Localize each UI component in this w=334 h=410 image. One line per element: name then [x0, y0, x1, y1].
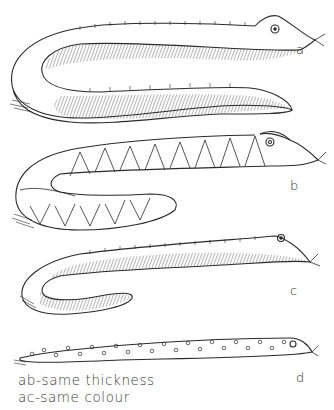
caption-colour: ac-same colour: [18, 389, 130, 405]
snake-b: [12, 132, 326, 230]
label-b: b: [290, 178, 298, 193]
caption-thickness: ab-same thickness: [18, 372, 155, 388]
label-d: d: [296, 370, 304, 385]
label-a: a: [296, 42, 304, 57]
snake-c: [20, 235, 320, 315]
snake-illustration: [0, 0, 334, 410]
label-c: c: [290, 283, 297, 298]
snake-d: [14, 338, 318, 365]
snake-a: [10, 16, 325, 123]
